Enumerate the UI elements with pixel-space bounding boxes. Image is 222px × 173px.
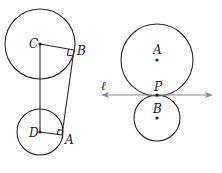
label-a: A <box>64 133 74 147</box>
segment-da <box>40 132 62 135</box>
point-c <box>38 42 41 45</box>
label-d: D <box>28 126 39 140</box>
label-circle-b: B <box>152 102 162 116</box>
label-b: B <box>76 44 86 58</box>
point-a-center <box>155 58 158 61</box>
geometry-diagram: C B D A A P B ℓ <box>0 0 222 173</box>
segment-ab <box>62 50 74 135</box>
label-p: P <box>153 80 163 94</box>
label-c: C <box>29 37 38 51</box>
point-d <box>38 130 41 133</box>
label-circle-a: A <box>152 43 162 57</box>
label-line-l: ℓ <box>101 79 106 93</box>
point-b-center <box>155 116 158 119</box>
